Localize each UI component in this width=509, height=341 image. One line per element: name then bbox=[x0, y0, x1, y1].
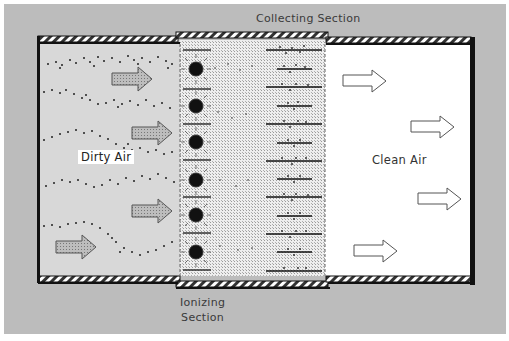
precipitator-diagram: Collecting Section Ionizing Section Dirt… bbox=[0, 0, 509, 341]
ionizing-section-label-line1: Ionizing bbox=[180, 295, 225, 310]
duct-illustration bbox=[0, 0, 509, 341]
ionizing-section-label: Ionizing Section bbox=[180, 295, 225, 325]
ionizing-section-label-line2: Section bbox=[180, 310, 225, 325]
ionizing-collecting-zone bbox=[180, 40, 325, 276]
clean-air-label: Clean Air bbox=[372, 153, 427, 167]
collecting-section-label: Collecting Section bbox=[256, 12, 360, 25]
dirty-air-label: Dirty Air bbox=[78, 150, 134, 164]
